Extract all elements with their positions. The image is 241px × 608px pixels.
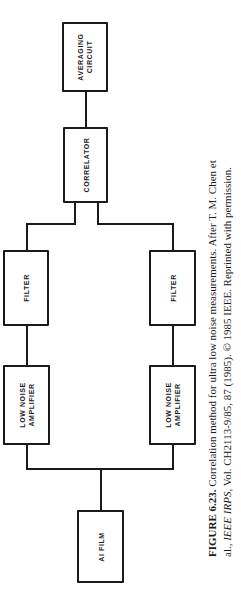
lna-left-block: LOW NOISE AMPLIFIER	[3, 365, 50, 445]
wire-filter-left-to-lna-left	[26, 326, 28, 365]
filter-left-block: FILTER	[3, 250, 49, 326]
figure-label: FIGURE 6.23.	[206, 489, 218, 557]
filter-left-label: FILTER	[22, 274, 31, 302]
wire-to-filter-left	[26, 223, 28, 250]
wire-to-filter-right	[172, 223, 174, 250]
filter-right-label: FILTER	[168, 274, 177, 302]
caption-line-1: FIGURE 6.23. Correlation method for ultr…	[205, 67, 220, 557]
journal-name: IEEE IRPS	[221, 492, 233, 541]
wire-lna-left-down	[26, 445, 28, 469]
wire-right-branch	[97, 223, 174, 225]
correlator-block: CORRELATOR	[63, 127, 108, 203]
wire-ai-film-stem	[100, 468, 102, 510]
figure-caption: FIGURE 6.23. Correlation method for ultr…	[205, 67, 235, 557]
averaging-circuit-label: AVERAGING CIRCUIT	[76, 33, 94, 80]
ai-film-label: AI FILM	[96, 532, 105, 561]
wire-left-branch	[26, 223, 76, 225]
lna-left-label: LOW NOISE AMPLIFIER	[18, 382, 36, 427]
correlator-label: CORRELATOR	[81, 138, 90, 193]
filter-right-block: FILTER	[149, 250, 196, 326]
caption-line-2: al., IEEE IRPS, Vol. CH2113-9/85, 87 (19…	[220, 67, 235, 557]
wire-correlator-to-averaging	[85, 92, 87, 127]
wire-filter-right-to-lna-right	[172, 326, 174, 365]
wire-correlator-left-out	[74, 203, 76, 224]
lna-right-label: LOW NOISE AMPLIFIER	[164, 382, 182, 427]
lna-right-block: LOW NOISE AMPLIFIER	[149, 365, 196, 445]
wire-lna-right-down	[172, 445, 174, 469]
wire-correlator-right-out	[97, 203, 99, 224]
ai-film-block: AI FILM	[77, 510, 124, 583]
averaging-circuit-block: AVERAGING CIRCUIT	[62, 22, 108, 92]
